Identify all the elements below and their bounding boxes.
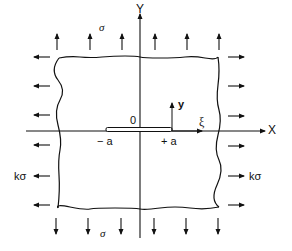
crack-plate-diagram: Y X 0 y ξ − a + a σ σ kσ kσ xyxy=(0,0,292,251)
local-xi-label: ξ xyxy=(199,116,204,128)
top-stress-label: σ xyxy=(99,22,104,33)
global-y-label: Y xyxy=(136,3,144,15)
global-axes xyxy=(26,14,265,238)
crack-left-tip-label: − a xyxy=(97,136,113,147)
bottom-stress-label: σ xyxy=(100,228,105,239)
diagram-canvas xyxy=(0,0,292,251)
crack xyxy=(106,128,172,132)
global-x-label: X xyxy=(268,124,276,136)
right-stress-label: kσ xyxy=(249,171,261,182)
plate-boundary xyxy=(54,56,221,209)
left-stress-label: kσ xyxy=(14,171,26,182)
bottom-load-arrows xyxy=(56,218,218,234)
top-load-arrows xyxy=(57,34,219,50)
crack-right-tip-label: + a xyxy=(161,136,177,147)
origin-label: 0 xyxy=(130,115,136,126)
local-axes xyxy=(172,103,202,131)
local-y-label: y xyxy=(178,99,184,110)
